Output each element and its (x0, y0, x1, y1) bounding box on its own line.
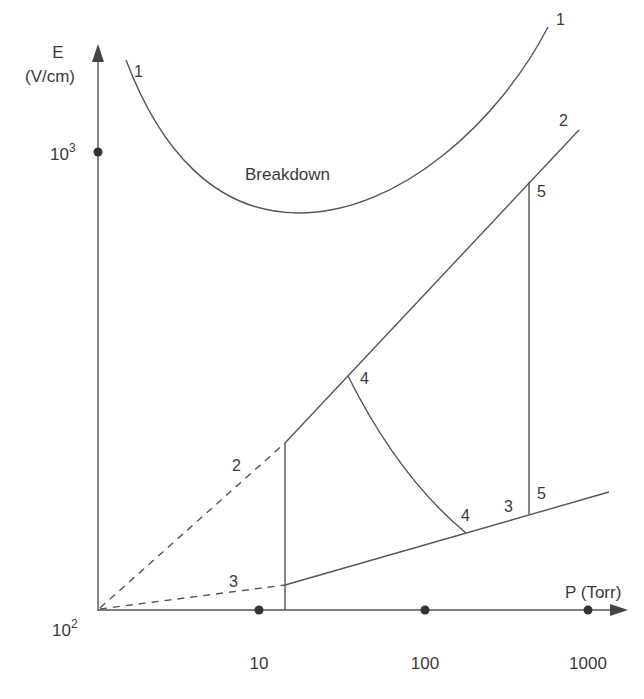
x-axis-label: P (Torr) (565, 583, 621, 602)
line-3-dashed (100, 585, 285, 609)
line-2-dashed (100, 443, 285, 608)
x-tick-label-100: 100 (411, 654, 439, 673)
x-tick-label-10: 10 (250, 654, 269, 673)
x-tick-dot-10 (255, 606, 264, 615)
x-tick-dot-100 (421, 606, 430, 615)
curve-2-label-top: 2 (559, 112, 568, 129)
curve-3-label-dashed: 3 (229, 573, 238, 590)
breakdown-diagram: E (V/cm) 103 102 P (Torr) 10 100 1000 Br… (0, 0, 644, 699)
curve-4-label-top: 4 (360, 370, 369, 387)
y-tick-label-100: 102 (52, 617, 78, 640)
curve-4-label-bottom: 4 (461, 507, 470, 524)
curve-1-label-left: 1 (134, 63, 143, 80)
curve-2-label-dashed: 2 (232, 457, 241, 474)
curve-3-label-right: 3 (504, 498, 513, 515)
curve-1-label-right: 1 (556, 11, 565, 28)
y-axis-arrow-icon (92, 44, 104, 62)
breakdown-region-label: Breakdown (245, 165, 330, 184)
y-axis-label-symbol: E (52, 43, 63, 62)
line-3-solid (285, 492, 609, 585)
curve-1-breakdown (126, 27, 548, 213)
y-tick-dot-1000 (94, 148, 103, 157)
curve-5-label-top: 5 (537, 183, 546, 200)
curve-4 (348, 376, 466, 533)
x-tick-label-1000: 1000 (569, 654, 607, 673)
x-axis-arrow-icon (610, 604, 628, 616)
y-tick-label-1000: 103 (50, 141, 76, 164)
x-tick-dot-1000 (584, 606, 593, 615)
curve-5-label-bottom: 5 (537, 485, 546, 502)
y-axis-label-unit: (V/cm) (25, 67, 75, 86)
